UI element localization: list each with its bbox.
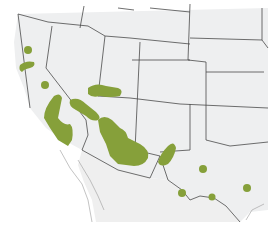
northern-california-dot bbox=[24, 46, 32, 54]
big-bend-dot bbox=[178, 189, 186, 197]
range-map bbox=[0, 0, 277, 236]
central-texas-dot bbox=[243, 184, 251, 192]
map-canvas bbox=[0, 0, 277, 236]
rio-grande-dot bbox=[209, 194, 216, 201]
west-texas-dot bbox=[199, 165, 207, 173]
central-california-dot bbox=[41, 81, 49, 89]
